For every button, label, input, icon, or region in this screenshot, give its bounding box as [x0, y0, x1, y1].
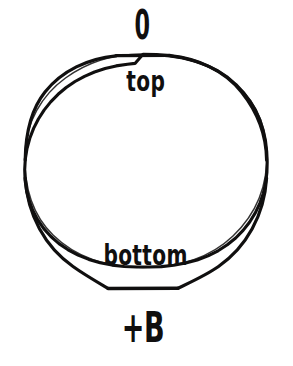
label-plus-b-below-circle: +B [41, 306, 246, 349]
label-bottom-inside-circle: bottom [28, 242, 262, 270]
label-top-inside-circle: top [29, 68, 263, 96]
figure-container: 0 top bottom +B [0, 0, 293, 366]
label-zero-above-circle: 0 [51, 5, 233, 45]
